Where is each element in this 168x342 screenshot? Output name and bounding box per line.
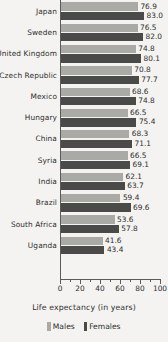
bar-females: 82.0	[61, 33, 143, 41]
bar-value-label: 69.6	[133, 204, 149, 211]
country-label: Uganda	[28, 242, 57, 249]
bar-value-label: 77.7	[141, 76, 157, 83]
bar-females: 83.0	[61, 12, 144, 20]
bar-value-label: 62.1	[126, 173, 142, 180]
bar-value-label: 59.4	[123, 195, 139, 202]
bar-group: 74.880.1	[61, 45, 141, 64]
chart-legend: Males Females	[0, 322, 168, 331]
chart-row: Hungary66.575.4	[0, 107, 168, 128]
axis-tick-major	[80, 280, 81, 284]
chart-rows: Japan76.983.0Sweden76.582.0United Kingdo…	[0, 1, 168, 278]
country-label: United Kingdom	[0, 51, 57, 58]
bar-value-label: 74.8	[138, 45, 154, 52]
axis-tick-minor	[90, 280, 91, 283]
bar-value-label: 75.4	[139, 119, 155, 126]
bar-males: 76.9	[61, 2, 138, 10]
bar-value-label: 80.1	[144, 55, 160, 62]
axis-tick-major	[140, 280, 141, 284]
legend-swatch-females-icon	[84, 322, 87, 331]
bar-group: 59.469.6	[61, 194, 131, 213]
bar-males: 66.5	[61, 151, 128, 159]
bar-males: 53.6	[61, 215, 115, 223]
life-expectancy-bar-chart: Japan76.983.0Sweden76.582.0United Kingdo…	[0, 0, 168, 342]
axis-tick-label: 40	[95, 285, 104, 292]
bar-males: 66.5	[61, 109, 128, 117]
bar-females: 63.7	[61, 182, 125, 190]
bar-males: 68.6	[61, 88, 130, 96]
bar-value-label: 68.3	[132, 131, 148, 138]
chart-row: Brazil59.469.6	[0, 193, 168, 214]
bar-group: 41.643.4	[61, 237, 104, 256]
chart-row: India62.163.7	[0, 171, 168, 192]
bar-group: 53.657.8	[61, 215, 119, 234]
bar-males: 70.8	[61, 66, 132, 74]
bar-group: 62.163.7	[61, 173, 125, 192]
bar-value-label: 66.5	[130, 109, 146, 116]
bar-group: 76.582.0	[61, 24, 143, 43]
bar-value-label: 83.0	[147, 12, 163, 19]
bar-group: 66.569.1	[61, 151, 130, 170]
bar-females: 43.4	[61, 246, 104, 254]
bar-value-label: 53.6	[117, 216, 133, 223]
bar-value-label: 82.0	[146, 34, 162, 41]
bar-value-label: 57.8	[121, 225, 137, 232]
country-label: Mexico	[31, 93, 57, 100]
axis-tick-minor	[110, 280, 111, 283]
bar-males: 68.3	[61, 130, 129, 138]
bar-value-label: 76.5	[140, 24, 156, 31]
axis-tick-label: 100	[153, 285, 167, 292]
bar-group: 68.371.1	[61, 130, 132, 149]
chart-row: United Kingdom74.880.1	[0, 44, 168, 65]
bar-females: 77.7	[61, 76, 139, 84]
bar-value-label: 68.6	[132, 88, 148, 95]
country-label: Syria	[38, 157, 57, 164]
bar-value-label: 70.8	[134, 67, 150, 74]
chart-row: South Africa53.657.8	[0, 214, 168, 235]
bar-males: 62.1	[61, 173, 123, 181]
bar-value-label: 41.6	[105, 237, 121, 244]
bar-group: 66.575.4	[61, 109, 136, 128]
legend-label-females: Females	[89, 323, 120, 331]
bar-females: 80.1	[61, 54, 141, 62]
country-label: Brazil	[36, 200, 57, 207]
chart-row: Sweden76.582.0	[0, 22, 168, 43]
bar-males: 59.4	[61, 194, 120, 202]
chart-row: Syria66.569.1	[0, 150, 168, 171]
bar-group: 76.983.0	[61, 2, 144, 21]
axis-tick-label: 20	[75, 285, 84, 292]
bar-females: 74.8	[61, 97, 136, 105]
axis-tick-label: 80	[135, 285, 144, 292]
bar-females: 75.4	[61, 118, 136, 126]
bar-females: 71.1	[61, 140, 132, 148]
bar-value-label: 76.9	[140, 3, 156, 10]
country-label: Czech Republic	[0, 72, 57, 79]
axis-tick-label: 0	[58, 285, 63, 292]
axis-tick-major	[160, 280, 161, 284]
chart-row: Mexico68.674.8	[0, 86, 168, 107]
axis-tick-major	[60, 280, 61, 284]
chart-row: Japan76.983.0	[0, 1, 168, 22]
axis-tick-minor	[130, 280, 131, 283]
chart-row: China68.371.1	[0, 129, 168, 150]
country-label: China	[35, 136, 57, 143]
chart-row: Czech Republic70.877.7	[0, 65, 168, 86]
bar-group: 68.674.8	[61, 88, 136, 107]
country-label: Sweden	[27, 29, 57, 36]
axis-tick-minor	[150, 280, 151, 283]
axis-tick-label: 60	[115, 285, 124, 292]
x-axis-title: Life expectancy (in years)	[0, 304, 168, 312]
axis-tick-minor	[70, 280, 71, 283]
bar-females: 69.1	[61, 161, 130, 169]
bar-females: 69.6	[61, 203, 131, 211]
bar-group: 70.877.7	[61, 66, 139, 85]
country-label: South Africa	[11, 221, 57, 228]
country-label: India	[38, 178, 57, 185]
bar-females: 57.8	[61, 225, 119, 233]
legend-item-males: Males	[47, 322, 74, 331]
bar-value-label: 71.1	[135, 140, 151, 147]
bar-value-label: 69.1	[133, 161, 149, 168]
chart-row: Uganda41.643.4	[0, 235, 168, 256]
legend-item-females: Females	[84, 322, 121, 331]
axis-tick-major	[120, 280, 121, 284]
legend-swatch-males-icon	[47, 322, 50, 331]
